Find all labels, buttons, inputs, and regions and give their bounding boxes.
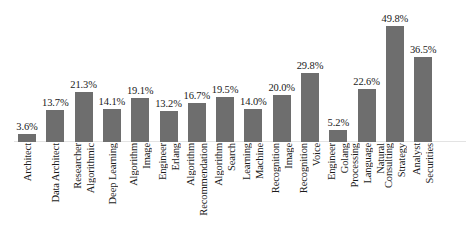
x-tick-label: ImageAlgorithm — [127, 143, 153, 238]
x-tick-label-line: Engineer — [325, 143, 338, 180]
x-tick-label-line: Language — [360, 143, 373, 184]
plot-area: 3.6%13.7%21.3%14.1%19.1%13.2%16.7%19.5%1… — [0, 0, 470, 142]
bar-value-label: 36.5% — [410, 44, 437, 55]
bar[interactable] — [46, 110, 64, 142]
bar[interactable] — [386, 26, 404, 142]
x-tick-label: Architect — [14, 143, 40, 238]
bar-group: 36.5% — [410, 0, 436, 142]
bar-value-label: 20.0% — [268, 82, 295, 93]
bar-group: 49.8% — [382, 0, 408, 142]
x-tick-label: SearchAlgorithm — [212, 143, 238, 238]
x-tick-label-line: Consulting — [382, 143, 395, 188]
bar-group: 20.0% — [269, 0, 295, 142]
bar[interactable] — [329, 130, 347, 142]
x-tick-label-line: Algorithmic — [84, 143, 97, 193]
bar-value-label: 49.8% — [382, 13, 409, 24]
x-tick-label-line: Algorithm — [127, 143, 140, 186]
bar[interactable] — [75, 92, 93, 142]
x-tick-label: RecommendationAlgorithm — [184, 143, 210, 238]
bar-value-label: 29.8% — [297, 60, 324, 71]
bar-value-label: 19.5% — [212, 84, 239, 95]
bar-group: 13.2% — [156, 0, 182, 142]
bar-group: 19.1% — [127, 0, 153, 142]
bar[interactable] — [273, 95, 291, 142]
bar-value-label: 5.2% — [328, 117, 349, 128]
bar-group: 22.6% — [354, 0, 380, 142]
x-tick-label-line: Strategy — [395, 143, 408, 177]
x-tick-label: Deep Learning — [99, 143, 125, 238]
bar-value-label: 3.6% — [16, 121, 37, 132]
x-tick-label-line: Voice — [310, 143, 323, 166]
bar[interactable] — [414, 57, 432, 142]
x-axis-tick-labels: ArchitectData ArchitectAlgorithmicResear… — [0, 143, 470, 238]
bar-group: 5.2% — [325, 0, 351, 142]
x-tick-label: VoiceRecognition — [297, 143, 323, 238]
bar-group: 16.7% — [184, 0, 210, 142]
bar-group: 29.8% — [297, 0, 323, 142]
x-tick-label-line: Algorithm — [184, 143, 197, 186]
bar[interactable] — [358, 89, 376, 142]
x-tick-label-line: Researcher — [71, 143, 84, 189]
bar-group: 3.6% — [14, 0, 40, 142]
bar-value-label: 13.7% — [42, 97, 69, 108]
x-tick-label-line: Engineer — [156, 143, 169, 180]
bar-value-label: 14.0% — [240, 96, 267, 107]
x-tick-label-line: Securities — [423, 143, 436, 183]
bar-value-label: 16.7% — [183, 90, 210, 101]
bar[interactable] — [160, 111, 178, 142]
bar-group: 21.3% — [71, 0, 97, 142]
bar-chart: 3.6%13.7%21.3%14.1%19.1%13.2%16.7%19.5%1… — [0, 0, 470, 238]
x-tick-label: ErlangEngineer — [156, 143, 182, 238]
x-tick-label: MachineLearning — [240, 143, 266, 238]
x-tick-label: ImageRecognition — [269, 143, 295, 238]
x-tick-label-line: Learning — [240, 143, 253, 180]
x-tick-label-line: Processing — [347, 143, 360, 188]
bar-value-label: 21.3% — [70, 79, 97, 90]
x-tick-label-line: Search — [225, 143, 238, 171]
bar-group: 19.5% — [212, 0, 238, 142]
bar-group: 14.1% — [99, 0, 125, 142]
x-tick-label: SecuritiesAnalyst — [410, 143, 436, 238]
x-tick-label: StrategyConsulting — [382, 143, 408, 238]
x-tick-label-line: Deep Learning — [105, 143, 118, 204]
bar-value-label: 14.1% — [99, 96, 126, 107]
bar[interactable] — [216, 97, 234, 142]
bar-value-label: 22.6% — [353, 76, 380, 87]
bar-value-label: 19.1% — [127, 85, 154, 96]
x-tick-label: NaturalLanguageProcessing — [354, 143, 380, 238]
bar-value-label: 13.2% — [155, 98, 182, 109]
x-tick-label-line: Machine — [253, 143, 266, 179]
bar-group: 13.7% — [42, 0, 68, 142]
bar-group: 14.0% — [240, 0, 266, 142]
x-tick-label-line: Data Architect — [49, 143, 62, 203]
bar[interactable] — [103, 109, 121, 142]
bar[interactable] — [244, 109, 262, 142]
x-tick-label-line: Architect — [21, 143, 34, 181]
bar[interactable] — [131, 98, 149, 142]
x-tick-label-line: Recognition — [269, 143, 282, 193]
x-tick-label-line: Recognition — [297, 143, 310, 193]
x-tick-label-line: Image — [282, 143, 295, 169]
x-tick-label: Data Architect — [42, 143, 68, 238]
x-tick-label-line: Recommendation — [197, 143, 210, 216]
x-tick-label-line: Image — [140, 143, 153, 169]
bar[interactable] — [301, 73, 319, 142]
x-tick-label-line: Analyst — [410, 143, 423, 175]
x-tick-label-line: Algorithm — [212, 143, 225, 186]
x-tick-label-line: Erlang — [169, 143, 182, 170]
bar[interactable] — [18, 134, 36, 142]
x-tick-label: AlgorithmicResearcher — [71, 143, 97, 238]
bar[interactable] — [188, 103, 206, 142]
